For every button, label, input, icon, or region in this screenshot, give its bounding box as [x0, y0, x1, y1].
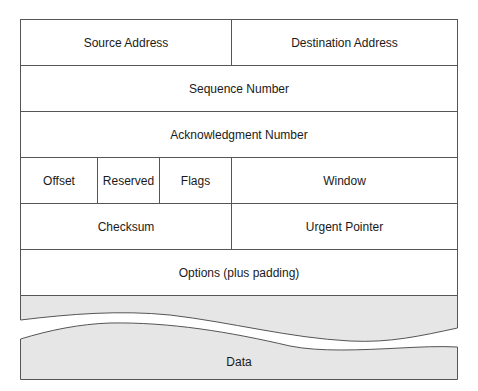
data-section-break	[0, 0, 478, 391]
data-label: Data	[20, 355, 458, 369]
